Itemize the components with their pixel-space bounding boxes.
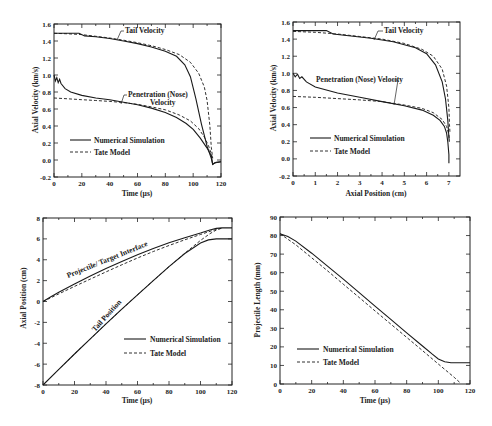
y-tick-label: 50 [270,288,278,296]
x-tick-label: 40 [106,180,114,188]
x-tick-label: 120 [216,180,227,188]
y-tick-label: 2 [37,277,41,285]
y-tick-label: 30 [270,325,278,333]
x-axis-label: Time (µs) [360,396,391,405]
y-tick-label: -2 [34,319,40,327]
legend-label-numerical: Numerical Simulation [94,136,165,145]
y-tick-label: -4 [34,340,40,348]
legend: Numerical Simulation Tate Model [310,134,405,156]
x-tick-label: 0 [52,180,56,188]
legend-label-tate: Tate Model [94,148,130,157]
series-line [54,98,213,158]
plot-frame [293,22,460,176]
series-line [280,234,470,363]
y-tick-label: 8 [37,215,41,223]
x-tick-label: 5 [403,179,407,187]
y-tick-label: 0.2 [42,140,51,148]
x-tick-label: 80 [166,388,174,396]
legend-label-numerical: Numerical Simulation [150,335,221,344]
x-axis-label: Time (µs) [122,396,153,405]
x-tick-label: 120 [227,388,238,396]
x-tick-label: 60 [372,387,380,395]
y-tick-label: 0.4 [281,121,290,129]
y-tick-label: 1.2 [281,53,290,61]
y-tick-label: 60 [270,269,278,277]
x-tick-label: 4 [380,179,384,187]
annotation-nose-velocity: Penetration (Nose) Velocity [316,75,403,84]
x-tick-label: 2 [336,179,340,187]
y-tick-label: 1.6 [281,19,290,27]
plot-area: 0204060801001200102030405060708090 [270,214,476,396]
x-tick-label: 60 [134,388,142,396]
x-tick-label: 80 [162,180,170,188]
series-line [43,239,232,385]
x-tick-label: 20 [308,387,316,395]
series-line [293,31,449,142]
chart-velocity-vs-position: 01234567-0.20.00.20.40.60.81.01.21.41.6 … [269,19,460,199]
plot-frame [280,217,470,384]
series-line [43,228,232,302]
y-tick-label: 0.8 [42,89,51,97]
y-tick-label: 80 [270,232,278,240]
legend-label-numerical: Numerical Simulation [334,134,405,143]
series-line [280,234,461,383]
x-tick-label: 120 [465,387,476,395]
x-tick-label: 100 [433,387,444,395]
y-tick-label: 1.2 [42,55,51,63]
series-line [54,75,221,164]
y-tick-label: 1.4 [281,36,290,44]
x-tick-label: 0 [291,179,295,187]
legend-label-tate: Tate Model [334,147,370,156]
y-tick-label: -0.2 [279,173,291,181]
y-tick-label: 10 [270,362,278,370]
y-tick-label: 4 [37,256,41,264]
x-tick-label: 100 [195,388,206,396]
x-tick-label: 0 [41,388,45,396]
y-tick-label: 40 [270,306,278,314]
x-tick-label: 6 [425,179,429,187]
plot-area: 020406080100120-0.20.00.20.40.60.81.01.2… [40,21,227,189]
annotation-tail-position: Tail Position [90,297,124,333]
x-tick-label: 3 [358,179,362,187]
y-tick-label: 0.0 [281,155,290,163]
legend-label-tate: Tate Model [323,358,359,367]
y-tick-label: -0.2 [40,174,52,182]
y-tick-label: 0 [274,381,278,389]
legend-label-numerical: Numerical Simulation [323,345,394,354]
x-tick-label: 1 [314,179,318,187]
y-tick-label: 1.0 [281,70,290,78]
y-axis-label: Axial Velocity (km/s) [269,64,278,131]
annotation-tail-velocity: Tail Velocity [125,26,165,35]
y-tick-label: 1.4 [42,38,51,46]
legend: Numerical Simulation Tate Model [124,335,221,358]
annotation-interface: Projectile/ Target Interface [65,239,149,280]
y-tick-label: 90 [270,214,278,222]
x-tick-label: 0 [278,387,282,395]
plot-area: 01234567-0.20.00.20.40.60.81.01.21.41.6 [279,19,460,188]
chart-position-vs-time: 020406080100120-8-6-4-202468 Time (µs) A… [19,215,238,406]
x-axis-label: Time (µs) [122,189,153,198]
y-tick-label: 1.0 [42,72,51,80]
x-tick-label: 100 [188,180,199,188]
y-tick-label: 0.6 [281,104,290,112]
annotation-nose-velocity-line2: Velocity [150,98,176,107]
y-tick-label: 0.4 [42,123,51,131]
y-tick-label: -6 [34,361,40,369]
figure-canvas: 020406080100120-0.20.00.20.40.60.81.01.2… [0,0,492,426]
y-axis-label: Axial Position (cm) [19,267,28,329]
y-tick-label: 0 [37,298,41,306]
y-tick-label: 70 [270,251,278,259]
legend: Numerical Simulation Tate Model [297,345,394,367]
annotation-tail-velocity: Tail Velocity [384,26,424,35]
legend-label-tate: Tate Model [150,349,186,358]
y-tick-label: 0.6 [42,106,51,114]
x-tick-label: 40 [103,388,111,396]
x-tick-label: 80 [403,387,411,395]
y-tick-label: 20 [270,343,278,351]
chart-velocity-vs-time: 020406080100120-0.20.00.20.40.60.81.01.2… [31,21,227,199]
y-tick-label: 0.0 [42,157,51,165]
y-tick-label: 0.8 [281,87,290,95]
chart-length-vs-time: 0204060801001200102030405060708090 Time … [253,214,476,406]
x-tick-label: 40 [340,387,348,395]
x-tick-label: 20 [78,180,86,188]
